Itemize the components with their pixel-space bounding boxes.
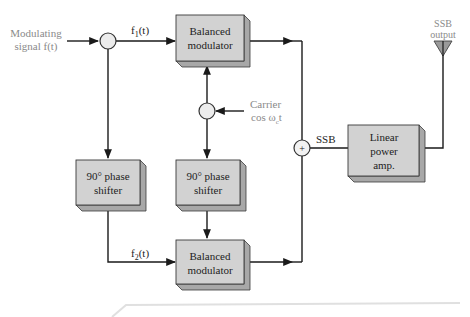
amp-to-antenna-line: [425, 55, 443, 148]
svg-text:modulator: modulator: [187, 264, 233, 276]
middle-phase-shifter: 90° phase shifter: [176, 160, 246, 211]
svg-text:90° phase: 90° phase: [86, 170, 129, 182]
antenna-icon: [434, 41, 452, 56]
top-balanced-modulator: Balanced modulator: [176, 15, 250, 67]
f1-label: f1(t): [131, 24, 149, 39]
carrier-label: Carrier: [250, 98, 281, 110]
svg-text:modulator: modulator: [187, 39, 233, 51]
svg-text:power: power: [370, 145, 398, 157]
bottom-balanced-modulator: Balanced modulator: [176, 240, 250, 290]
modulating-signal-label: Modulating: [10, 27, 62, 39]
left-phase-shifter: 90° phase shifter: [76, 160, 146, 211]
decorative-footer-line: [112, 303, 460, 317]
ssb-output-label: SSB: [434, 18, 452, 29]
svg-text:Linear: Linear: [370, 131, 399, 143]
linear-power-amp: Linear power amp.: [348, 125, 425, 182]
carrier-split-junction: [199, 103, 215, 119]
f2-label: f2(t): [131, 247, 149, 262]
ssb-output-label-2: output: [430, 29, 456, 40]
input-split-junction: [100, 33, 116, 49]
svg-text:amp.: amp.: [373, 159, 395, 171]
svg-text:shifter: shifter: [94, 184, 122, 196]
ssb-phasing-diagram: + Balanced modulator 90° phase shifter 9…: [0, 0, 470, 317]
carrier-formula: cos ωct: [251, 111, 282, 126]
svg-text:90° phase: 90° phase: [186, 170, 229, 182]
modulating-signal-label-2: signal f(t): [14, 40, 57, 53]
ssb-label: SSB: [316, 133, 336, 145]
summer-plus-icon: +: [299, 143, 305, 154]
svg-text:Balanced: Balanced: [190, 25, 231, 37]
svg-text:Balanced: Balanced: [190, 250, 231, 262]
svg-text:shifter: shifter: [194, 184, 222, 196]
